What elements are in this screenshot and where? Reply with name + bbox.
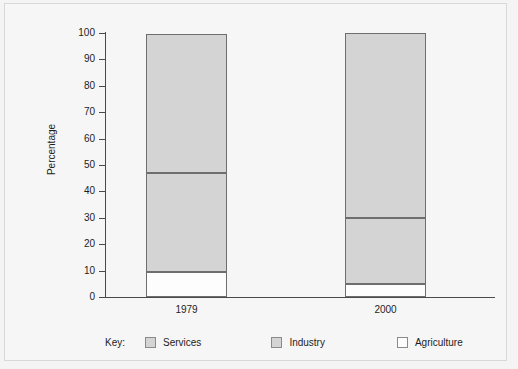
- legend-items: ServicesIndustryAgriculture: [145, 337, 463, 348]
- y-tick-label-wrapper: 0: [55, 292, 95, 302]
- legend: Key: ServicesIndustryAgriculture: [105, 334, 463, 350]
- y-tick-label: 60: [59, 134, 95, 144]
- y-tick-label-wrapper: 80: [55, 81, 95, 91]
- y-tick-label: 40: [59, 186, 95, 196]
- bar-segment-services-1979: [146, 34, 227, 173]
- legend-label-agriculture: Agriculture: [415, 337, 463, 348]
- y-tick-label: 100: [59, 28, 95, 38]
- legend-label-industry: Industry: [289, 337, 325, 348]
- chart-frame: Percentage 0102030405060708090100 197920…: [4, 3, 507, 361]
- bar-segment-services-2000: [345, 33, 426, 218]
- bar-segment-agriculture-1979: [146, 272, 227, 297]
- y-tick-label: 70: [59, 107, 95, 117]
- y-tick-label: 10: [59, 266, 95, 276]
- legend-item-industry[interactable]: Industry: [271, 337, 325, 348]
- y-tick-mark: [99, 297, 105, 298]
- y-tick-label-wrapper: 90: [55, 54, 95, 64]
- y-tick-label-wrapper: 10: [55, 266, 95, 276]
- y-tick-label-wrapper: 30: [55, 213, 95, 223]
- bar-1979: [146, 33, 227, 297]
- bar-segment-agriculture-2000: [345, 284, 426, 297]
- y-tick-label: 30: [59, 213, 95, 223]
- legend-item-agriculture[interactable]: Agriculture: [397, 337, 463, 348]
- legend-key-label: Key:: [105, 337, 125, 348]
- legend-swatch-services: [145, 337, 156, 348]
- x-axis-label-2000: 2000: [326, 304, 446, 315]
- legend-label-services: Services: [163, 337, 201, 348]
- y-tick-label-wrapper: 60: [55, 134, 95, 144]
- y-tick-label: 20: [59, 239, 95, 249]
- y-tick-label: 90: [59, 54, 95, 64]
- y-axis-ticks: 0102030405060708090100: [5, 4, 105, 369]
- bar-segment-industry-2000: [345, 218, 426, 284]
- legend-swatch-agriculture: [397, 337, 408, 348]
- y-tick-label: 50: [59, 160, 95, 170]
- plot-area: [105, 33, 463, 297]
- y-tick-label-wrapper: 100: [55, 28, 95, 38]
- y-tick-label-wrapper: 20: [55, 239, 95, 249]
- legend-swatch-industry: [271, 337, 282, 348]
- legend-item-services[interactable]: Services: [145, 337, 201, 348]
- x-axis-label-1979: 1979: [127, 304, 247, 315]
- chart-page: Percentage 0102030405060708090100 197920…: [0, 0, 518, 369]
- bar-2000: [345, 33, 426, 297]
- y-tick-label-wrapper: 50: [55, 160, 95, 170]
- y-tick-label: 0: [59, 292, 95, 302]
- x-axis-line: [105, 297, 495, 298]
- y-tick-label: 80: [59, 81, 95, 91]
- bar-segment-industry-1979: [146, 173, 227, 272]
- y-tick-label-wrapper: 40: [55, 186, 95, 196]
- y-tick-label-wrapper: 70: [55, 107, 95, 117]
